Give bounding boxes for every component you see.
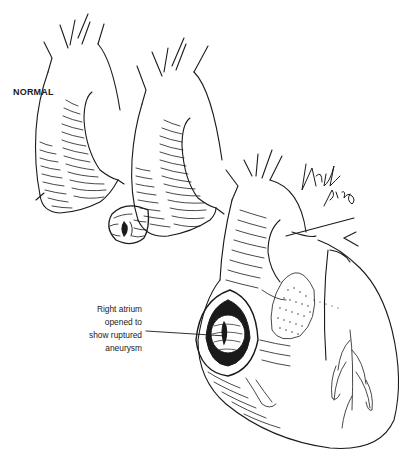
- callout-line-2: opened to: [70, 315, 142, 328]
- artist-signature: [302, 164, 354, 206]
- stipple-pattern: [277, 287, 338, 334]
- normal-label: NORMAL: [13, 87, 54, 97]
- illustration-canvas: [0, 0, 405, 465]
- callout-line-4: aneurysm: [70, 341, 142, 354]
- callout-line-1: Right atrium: [70, 302, 142, 315]
- heart-drawing: [196, 150, 399, 448]
- callout-text: Right atrium opened to show ruptured ane…: [70, 302, 142, 354]
- callout-line-3: show ruptured: [70, 328, 142, 341]
- aneurysm-aorta-drawing: [109, 38, 224, 244]
- normal-aorta-drawing: [36, 14, 125, 213]
